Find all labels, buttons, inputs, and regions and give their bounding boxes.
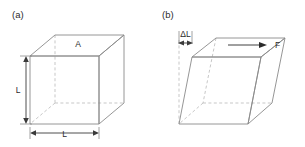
panel-a-caption: (a) bbox=[12, 9, 24, 20]
panel-a-height-label: L bbox=[16, 85, 21, 95]
shear-deformation-figure: A L bbox=[0, 0, 305, 147]
panel-a-group: A L bbox=[16, 35, 124, 139]
panel-a-width-dimension: L bbox=[30, 127, 99, 139]
panel-b-displacement-dimension: ΔL bbox=[178, 29, 193, 46]
panel-b-hidden-edges bbox=[179, 38, 272, 124]
panel-a-width-label: L bbox=[62, 129, 67, 139]
panel-b-caption: (b) bbox=[162, 9, 174, 20]
figure-canvas: A L bbox=[0, 0, 305, 147]
panel-b-group: ΔL F bbox=[178, 29, 285, 125]
panel-b-displacement-label: ΔL bbox=[180, 29, 191, 39]
panel-b-force-label: F bbox=[275, 40, 280, 50]
panel-a-height-dimension: L bbox=[16, 56, 32, 124]
panel-a-area-label: A bbox=[75, 39, 81, 49]
panel-b-sheared-edges bbox=[179, 38, 285, 124]
